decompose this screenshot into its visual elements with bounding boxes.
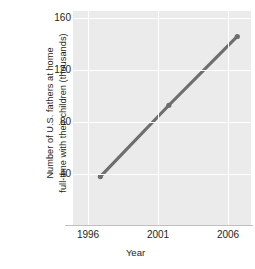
gridline-y-40 bbox=[73, 174, 251, 175]
gridline-y-120 bbox=[73, 70, 251, 71]
y-tick-40: 40 bbox=[43, 169, 71, 179]
plot-area bbox=[73, 11, 251, 225]
gridline-y-160 bbox=[73, 18, 251, 19]
x-tick-1996: 1996 bbox=[66, 229, 110, 241]
x-axis-title-text: Year bbox=[126, 247, 145, 258]
x-axis-line bbox=[65, 225, 253, 226]
y-tick-120: 120 bbox=[43, 65, 71, 75]
line-chart-figure: Number of U.S. fathers at home full-time… bbox=[0, 0, 255, 269]
gridline-x-2001 bbox=[158, 11, 159, 225]
x-tick-2001: 2001 bbox=[136, 229, 180, 241]
x-tick-2006: 2006 bbox=[206, 229, 250, 241]
gridline-x-2006 bbox=[228, 11, 229, 225]
x-axis-tick-labels: 1996 2001 2006 bbox=[0, 229, 255, 243]
gridline-x-1996 bbox=[88, 11, 89, 225]
y-tick-80: 80 bbox=[43, 117, 71, 127]
data-point-2001 bbox=[166, 103, 171, 108]
data-point-2006 bbox=[235, 34, 240, 39]
data-series-line bbox=[73, 11, 251, 225]
x-axis-title: Year bbox=[0, 247, 255, 258]
y-tick-160: 160 bbox=[43, 13, 71, 23]
gridline-y-80 bbox=[73, 122, 251, 123]
